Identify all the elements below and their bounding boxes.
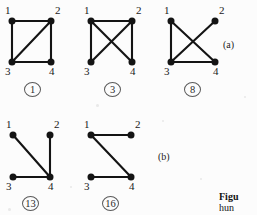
graph-number-text: 13 [22,196,39,211]
vertex-label-2: 2 [219,5,225,16]
vertex-label-4: 4 [130,66,136,77]
vertex-label-1: 1 [84,5,90,16]
vertex-node-1 [10,132,17,139]
graph-number-text: 8 [184,82,201,97]
vertex-node-2 [212,18,219,25]
vertex-label-2: 2 [136,5,142,16]
graph-number-text: 3 [104,82,121,97]
graph-number-text: 1 [24,82,41,97]
graph-number-text: 16 [102,196,119,211]
graph-13: 123413 [0,113,80,215]
edge-1-4 [13,135,50,177]
edge-1-4 [91,135,131,177]
scan-artifact [200,178,202,180]
vertex-node-1 [9,18,16,25]
graph-number-badge: 13 [22,196,39,211]
figure-caption: Figuhun [219,191,257,213]
panel-label-b: (b) [158,152,170,162]
vertex-label-3: 3 [5,66,11,77]
vertex-label-1: 1 [164,5,170,16]
graph-16: 123416 [80,113,160,215]
panel-label-a: (a) [223,40,234,50]
vertex-label-3: 3 [84,181,90,192]
graph-8: 12348 [160,0,240,100]
vertex-label-4: 4 [49,66,55,77]
scan-artifact [162,120,164,122]
vertex-label-2: 2 [55,5,61,16]
caption-line-1: Figu [219,191,238,202]
figure-canvas: 123411234312348123413123416(a)(b)Figuhun [0,0,257,215]
vertex-node-2 [47,132,54,139]
graph-number-badge: 8 [184,82,201,97]
vertex-label-1: 1 [5,5,11,16]
vertex-label-1: 1 [84,119,90,130]
scan-artifact [244,96,246,98]
edge-2-3 [12,21,51,62]
graph-drawing [0,113,80,215]
graph-number-badge: 3 [104,82,121,97]
vertex-node-1 [168,18,175,25]
vertex-label-4: 4 [213,66,219,77]
vertex-label-4: 4 [48,181,54,192]
graph-1: 12341 [0,0,80,100]
vertex-node-2 [48,18,55,25]
graph-number-badge: 16 [102,196,119,211]
vertex-label-1: 1 [6,119,12,130]
graph-drawing [80,113,160,215]
vertex-label-3: 3 [164,66,170,77]
vertex-node-1 [88,132,95,139]
vertex-label-3: 3 [84,66,90,77]
vertex-node-2 [129,18,136,25]
graph-number-badge: 1 [24,82,41,97]
vertex-label-4: 4 [129,181,135,192]
vertex-label-2: 2 [135,119,141,130]
vertex-node-1 [88,18,95,25]
vertex-label-2: 2 [54,119,60,130]
graph-3: 12343 [80,0,160,100]
vertex-node-2 [128,132,135,139]
scan-artifact [70,186,72,188]
scan-artifact [96,104,99,107]
caption-line-2: hun [219,202,257,213]
vertex-label-3: 3 [6,181,12,192]
scan-artifact [8,208,11,211]
